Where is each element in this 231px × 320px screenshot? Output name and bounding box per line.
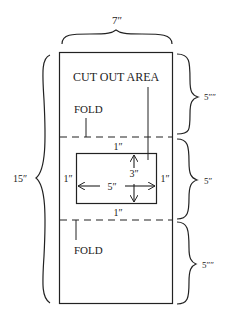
total-height-brace	[36, 55, 50, 303]
cutout-rectangle	[77, 154, 157, 204]
margin-bottom-label: 1″	[113, 207, 122, 218]
total-height-label: 15″	[13, 173, 27, 184]
cutout-height-label: 3″	[129, 168, 138, 179]
margin-left-label: 1″	[63, 173, 72, 184]
width-label: 7″	[112, 14, 122, 26]
margin-top-label: 1″	[113, 141, 122, 152]
top-section-label: 5″″	[204, 92, 216, 102]
fold-label-bottom: FOLD	[74, 244, 103, 256]
middle-section-brace	[177, 139, 197, 219]
middle-section-label: 5″	[204, 176, 213, 186]
margin-right-label: 1″	[160, 173, 169, 184]
bottom-section-brace	[177, 222, 196, 304]
diagram-canvas: 7″ FOLD FOLD CUT OUT AREA 1″ 1″ 1″ 1″ 5″…	[0, 0, 231, 320]
bottom-section-label: 5″″	[202, 260, 214, 270]
cutout-width-label: 5″	[107, 181, 116, 192]
top-section-brace	[177, 54, 198, 134]
width-brace	[62, 30, 172, 44]
cut-out-area-label: CUT OUT AREA	[73, 70, 160, 84]
fold-label-top: FOLD	[74, 103, 103, 115]
